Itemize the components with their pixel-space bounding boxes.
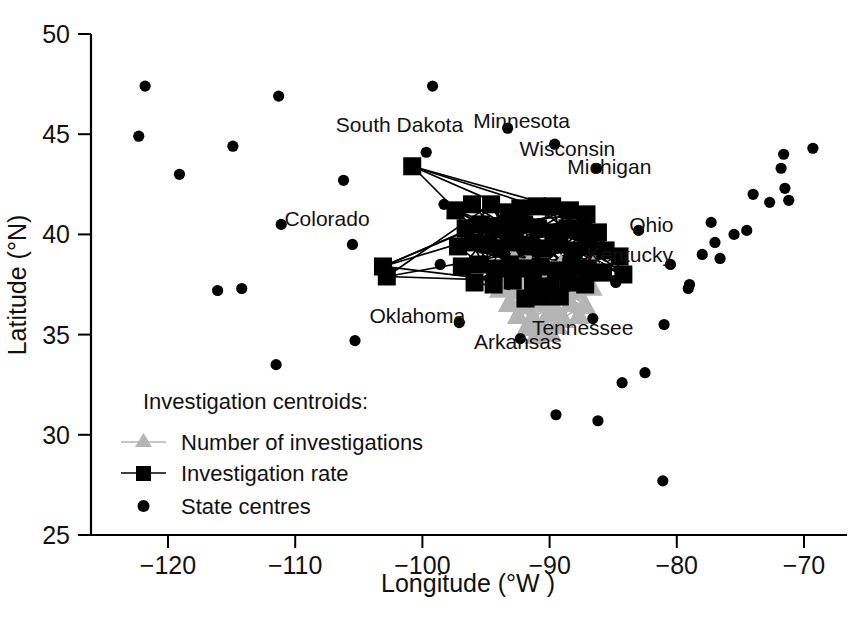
y-axis-title: Latitude (°N) xyxy=(3,215,31,356)
legend-title: Investigation centroids: xyxy=(143,389,368,414)
square-marker xyxy=(453,257,471,275)
scatter-plot-canvas: 253035404550 −120−110−100−90−80−70 Longi… xyxy=(0,0,855,628)
state-label-minnesota: Minnesota xyxy=(473,109,570,132)
legend-label-number-of-investigations: Number of investigations xyxy=(181,430,423,455)
square-marker xyxy=(472,215,490,233)
square-icon xyxy=(136,466,151,481)
state-centre-dot xyxy=(435,259,446,270)
state-centre-dot xyxy=(338,175,349,186)
state-centre-dot xyxy=(421,147,432,158)
state-centre-dot xyxy=(438,199,449,210)
square-marker xyxy=(463,195,481,213)
y-tick-label-35: 35 xyxy=(42,321,70,349)
y-tick-label-45: 45 xyxy=(42,120,70,148)
state-label-michigan: Michigan xyxy=(567,155,651,178)
square-marker xyxy=(378,267,396,285)
x-tick-label--70: −70 xyxy=(783,551,825,579)
square-marker xyxy=(504,271,522,289)
state-label-kentucky: Kentucky xyxy=(587,243,674,266)
circle-icon xyxy=(138,500,150,512)
y-tick-label-25: 25 xyxy=(42,521,70,549)
state-centre-dot xyxy=(550,409,561,420)
state-centre-dot xyxy=(349,335,360,346)
state-label-oklahoma: Oklahoma xyxy=(369,304,465,327)
state-centre-dot xyxy=(236,283,247,294)
state-label-south-dakota: South Dakota xyxy=(336,113,464,136)
square-marker xyxy=(562,257,580,275)
state-centre-dot xyxy=(728,229,739,240)
square-marker xyxy=(485,276,503,294)
state-centre-dot xyxy=(658,319,669,330)
square-marker xyxy=(576,276,594,294)
square-marker xyxy=(543,197,561,215)
state-centre-dot xyxy=(212,285,223,296)
state-centre-dot xyxy=(657,475,668,486)
state-centre-dot xyxy=(273,91,284,102)
square-marker xyxy=(516,290,534,308)
x-tick-label--120: −120 xyxy=(140,551,196,579)
state-centre-dot xyxy=(347,239,358,250)
state-centre-dot xyxy=(133,131,144,142)
y-tick-label-50: 50 xyxy=(42,20,70,48)
state-centre-dot xyxy=(592,415,603,426)
state-centre-dot xyxy=(271,359,282,370)
state-centre-dot xyxy=(709,237,720,248)
x-tick-label--110: −110 xyxy=(268,551,322,579)
square-marker xyxy=(577,205,595,223)
state-centre-dot xyxy=(779,183,790,194)
y-tick-label-40: 40 xyxy=(42,220,70,248)
state-centre-dot xyxy=(714,253,725,264)
square-marker xyxy=(403,157,421,175)
square-marker xyxy=(466,273,484,291)
state-centre-dot xyxy=(610,277,621,288)
square-marker xyxy=(511,199,529,217)
state-centre-dot xyxy=(741,225,752,236)
state-centre-dot xyxy=(174,169,185,180)
state-label-ohio: Ohio xyxy=(629,213,673,236)
x-tick-label--80: −80 xyxy=(656,551,698,579)
state-centre-dot xyxy=(778,149,789,160)
square-marker xyxy=(469,255,487,273)
state-centre-dot xyxy=(783,195,794,206)
state-centre-dot xyxy=(706,217,717,228)
state-centre-dot xyxy=(227,141,238,152)
state-centre-dot xyxy=(697,249,708,260)
chart-figure: 253035404550 −120−110−100−90−80−70 Longi… xyxy=(0,0,855,628)
square-marker xyxy=(561,201,579,219)
legend-label-state-centres: State centres xyxy=(181,494,311,519)
state-centre-dot xyxy=(683,283,694,294)
square-marker xyxy=(533,288,551,306)
state-centre-dot xyxy=(617,377,628,388)
state-centre-dot xyxy=(807,143,818,154)
legend-label-investigation-rate: Investigation rate xyxy=(181,461,349,486)
square-marker xyxy=(551,288,569,306)
square-marker xyxy=(572,221,590,239)
state-label-arkansas: Arkansas xyxy=(474,330,562,353)
state-centre-dot xyxy=(427,81,438,92)
state-centre-dot xyxy=(639,367,650,378)
state-centre-dot xyxy=(776,163,787,174)
state-centre-dot xyxy=(748,189,759,200)
state-label-colorado: Colorado xyxy=(284,207,369,230)
state-centre-dot xyxy=(764,197,775,208)
state-centre-dot xyxy=(140,81,151,92)
square-marker xyxy=(482,195,500,213)
x-axis-title: Longitude (°W ) xyxy=(381,569,555,597)
y-tick-label-30: 30 xyxy=(42,421,70,449)
